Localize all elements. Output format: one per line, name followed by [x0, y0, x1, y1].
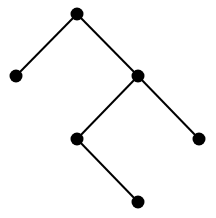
tree-edge	[138, 76, 199, 139]
tree-edge	[77, 139, 138, 202]
tree-node-right-right	[193, 133, 206, 146]
tree-edge	[77, 14, 138, 76]
tree-node-left	[10, 70, 23, 83]
binary-tree-diagram	[0, 0, 216, 218]
tree-edge	[77, 76, 138, 139]
tree-node-right-left-right	[132, 196, 145, 209]
tree-edge	[16, 14, 77, 76]
tree-edges	[16, 14, 199, 202]
tree-node-root	[71, 8, 84, 21]
tree-node-right	[132, 70, 145, 83]
tree-node-right-left	[71, 133, 84, 146]
